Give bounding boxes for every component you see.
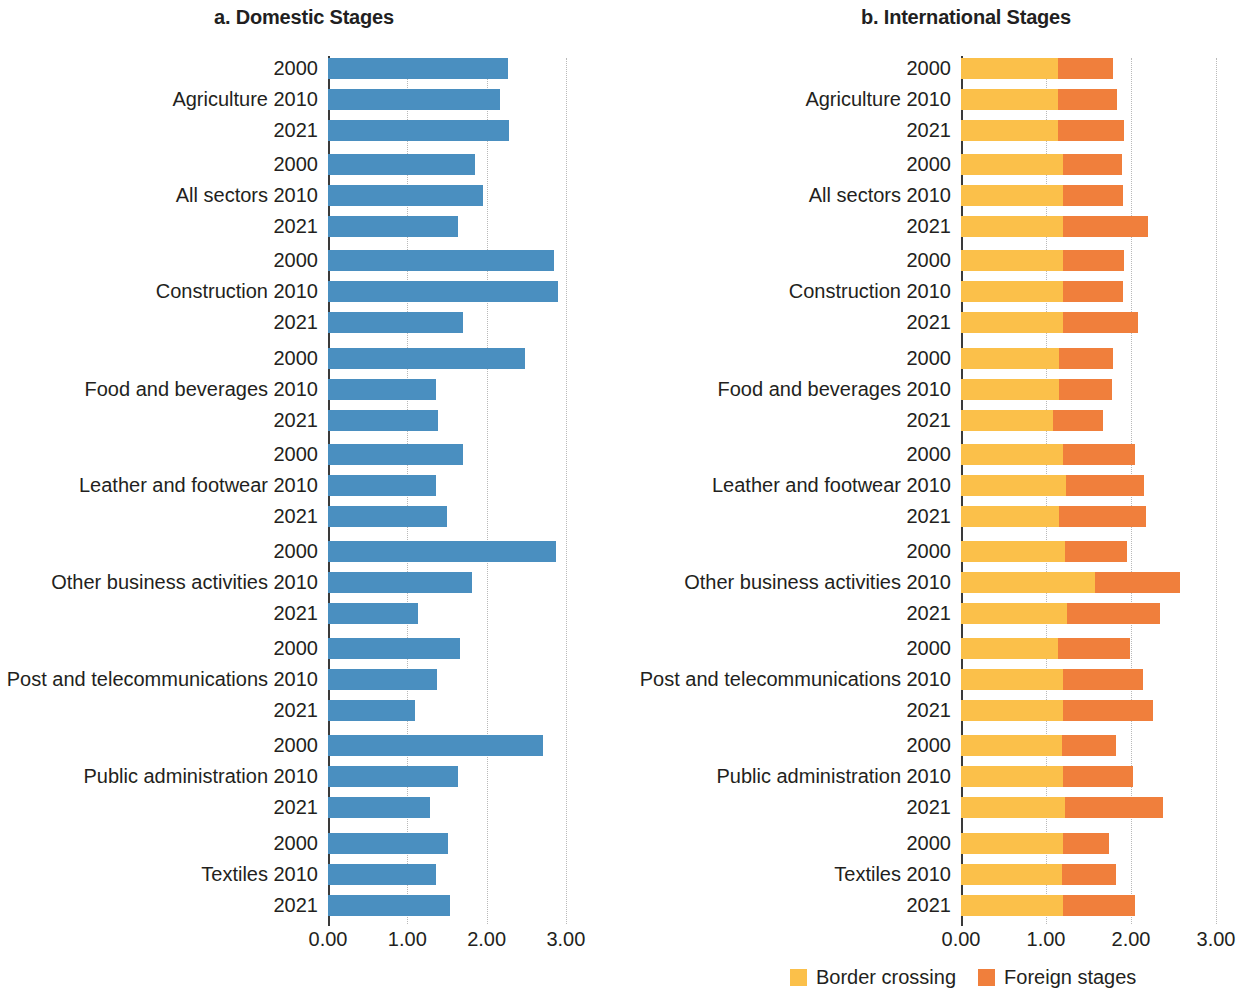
- category-label: Post and telecommunications: [640, 669, 901, 690]
- bar-segment-domestic: [328, 541, 556, 562]
- x-tick-label: 3.00: [1197, 926, 1236, 952]
- year-label: 2021: [274, 603, 319, 624]
- year-label: 2010: [907, 281, 952, 302]
- legend-item-border_crossing[interactable]: Border crossing: [790, 966, 956, 989]
- bar-international-5-2021: [961, 603, 1160, 624]
- bar-segment-foreign-stages: [1058, 89, 1118, 110]
- bar-segment-domestic: [328, 89, 500, 110]
- bar-segment-border-crossing: [961, 864, 1062, 885]
- year-label: 2021: [274, 506, 319, 527]
- bar-segment-domestic: [328, 638, 460, 659]
- y-axis-labels-international: 200020102021Agriculture200020102021All s…: [624, 58, 955, 924]
- gridline-3.00: [566, 58, 568, 924]
- panel-domestic-stages: a. Domestic Stages 200020102021Agricultu…: [0, 0, 624, 998]
- bar-segment-border-crossing: [961, 89, 1058, 110]
- bar-segment-domestic: [328, 120, 509, 141]
- bar-segment-border-crossing: [961, 669, 1063, 690]
- bar-domestic-4-2010: [328, 475, 436, 496]
- y-axis-labels-domestic: 200020102021Agriculture200020102021All s…: [0, 58, 322, 924]
- year-label: 2010: [907, 766, 952, 787]
- bar-segment-border-crossing: [961, 766, 1063, 787]
- year-label: 2000: [907, 638, 952, 659]
- year-label: 2000: [274, 348, 319, 369]
- bar-segment-foreign-stages: [1063, 833, 1109, 854]
- year-label: 2010: [274, 185, 319, 206]
- bar-segment-foreign-stages: [1062, 735, 1116, 756]
- bar-segment-foreign-stages: [1059, 348, 1113, 369]
- year-label: 2010: [907, 669, 952, 690]
- year-label: 2021: [907, 120, 952, 141]
- bar-segment-border-crossing: [961, 603, 1067, 624]
- bar-international-0-2000: [961, 58, 1113, 79]
- bar-segment-foreign-stages: [1063, 444, 1135, 465]
- bar-segment-foreign-stages: [1059, 379, 1113, 400]
- legend-item-foreign_stages[interactable]: Foreign stages: [978, 966, 1136, 989]
- bar-domestic-1-2021: [328, 216, 458, 237]
- bar-segment-domestic: [328, 312, 463, 333]
- bar-international-6-2000: [961, 638, 1130, 659]
- legend-label: Border crossing: [816, 966, 956, 989]
- bar-segment-border-crossing: [961, 410, 1053, 431]
- bar-international-3-2000: [961, 348, 1113, 369]
- year-label: 2010: [907, 475, 952, 496]
- bar-segment-domestic: [328, 58, 508, 79]
- year-label: 2021: [907, 312, 952, 333]
- figure-root: a. Domestic Stages 200020102021Agricultu…: [0, 0, 1248, 998]
- bar-segment-border-crossing: [961, 506, 1059, 527]
- bar-segment-foreign-stages: [1067, 603, 1160, 624]
- bar-domestic-7-2000: [328, 735, 543, 756]
- bar-domestic-2-2010: [328, 281, 558, 302]
- year-label: 2000: [907, 833, 952, 854]
- bar-domestic-4-2021: [328, 506, 447, 527]
- bar-segment-border-crossing: [961, 348, 1059, 369]
- bar-segment-domestic: [328, 216, 458, 237]
- bar-international-1-2010: [961, 185, 1123, 206]
- year-label: 2000: [907, 735, 952, 756]
- year-label: 2010: [907, 379, 952, 400]
- category-label: Textiles: [834, 864, 901, 885]
- category-label: Textiles: [201, 864, 268, 885]
- category-label: Agriculture: [805, 89, 901, 110]
- bar-segment-border-crossing: [961, 475, 1066, 496]
- bar-domestic-7-2010: [328, 766, 458, 787]
- bar-international-0-2021: [961, 120, 1124, 141]
- bar-domestic-6-2010: [328, 669, 437, 690]
- year-label: 2021: [274, 410, 319, 431]
- bar-domestic-3-2000: [328, 348, 525, 369]
- year-label: 2000: [274, 735, 319, 756]
- bar-segment-border-crossing: [961, 797, 1065, 818]
- bar-segment-border-crossing: [961, 700, 1063, 721]
- category-label: Food and beverages: [85, 379, 268, 400]
- gridline-2.00: [487, 58, 489, 924]
- year-label: 2010: [907, 185, 952, 206]
- year-label: 2000: [274, 638, 319, 659]
- category-label: Post and telecommunications: [7, 669, 268, 690]
- bar-segment-domestic: [328, 379, 436, 400]
- bar-international-6-2010: [961, 669, 1143, 690]
- bar-segment-domestic: [328, 766, 458, 787]
- bar-segment-border-crossing: [961, 216, 1063, 237]
- category-label: Other business activities: [684, 572, 901, 593]
- year-label: 2021: [907, 797, 952, 818]
- bar-international-8-2021: [961, 895, 1135, 916]
- bar-segment-foreign-stages: [1065, 541, 1127, 562]
- year-label: 2021: [274, 797, 319, 818]
- bar-international-4-2021: [961, 506, 1146, 527]
- bar-segment-domestic: [328, 833, 448, 854]
- bar-segment-foreign-stages: [1063, 154, 1122, 175]
- bar-segment-foreign-stages: [1063, 281, 1123, 302]
- legend-swatch-border_crossing: [790, 969, 807, 986]
- x-tick-label: 3.00: [546, 926, 585, 952]
- x-tick-label: 2.00: [1112, 926, 1151, 952]
- bar-segment-foreign-stages: [1063, 895, 1135, 916]
- bar-international-5-2000: [961, 541, 1127, 562]
- category-label: Construction: [156, 281, 268, 302]
- bar-segment-border-crossing: [961, 312, 1063, 333]
- year-label: 2000: [274, 154, 319, 175]
- bar-segment-foreign-stages: [1062, 864, 1116, 885]
- bar-international-8-2000: [961, 833, 1109, 854]
- year-label: 2010: [274, 669, 319, 690]
- category-label: Public administration: [716, 766, 901, 787]
- plot-area-international: [961, 58, 1217, 924]
- year-label: 2010: [907, 572, 952, 593]
